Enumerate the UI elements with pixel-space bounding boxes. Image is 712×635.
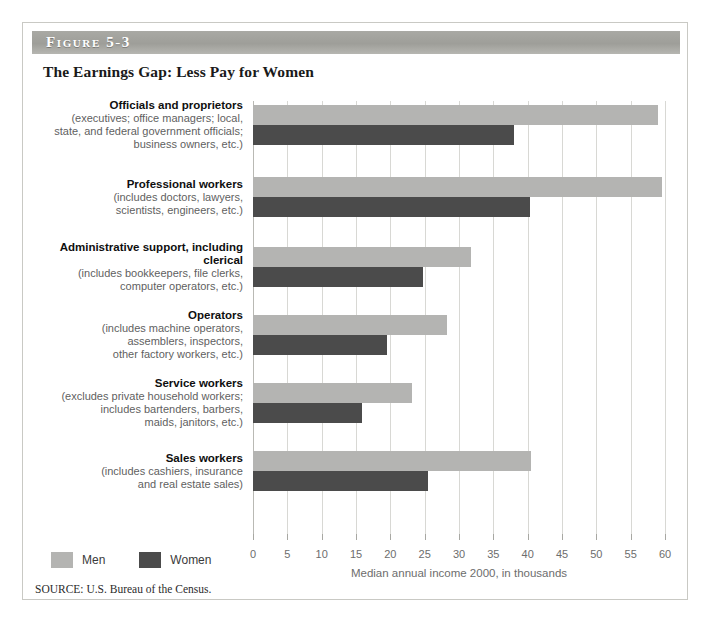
x-axis-tick [287, 534, 288, 540]
legend-label: Women [170, 553, 211, 567]
category-name: Sales workers [35, 452, 243, 465]
bar-men [253, 383, 412, 403]
bar-men [253, 247, 471, 267]
x-axis-tick [390, 534, 391, 540]
x-axis-tick [459, 534, 460, 540]
legend-item: Men [51, 552, 105, 568]
chart-title: The Earnings Gap: Less Pay for Women [43, 63, 314, 81]
category-label: Operators(includes machine operators, as… [35, 309, 253, 361]
x-axis-tick-label: 40 [522, 548, 534, 560]
category-name: Officials and proprietors [35, 99, 243, 112]
x-axis-tick-label: 50 [590, 548, 602, 560]
figure-number-label: Figure 5-3 [46, 34, 131, 51]
x-axis-tick [596, 534, 597, 540]
bar-group: Administrative support, including cleric… [253, 247, 665, 287]
x-axis-tick [425, 534, 426, 540]
x-axis-tick [562, 534, 563, 540]
bar-group: Sales workers(includes cashiers, insuran… [253, 451, 665, 491]
bar-women [253, 197, 530, 217]
x-axis-tick-label: 30 [453, 548, 465, 560]
bar-men [253, 177, 662, 197]
bar-group: Operators(includes machine operators, as… [253, 315, 665, 355]
figure-card: Figure 5-3 The Earnings Gap: Less Pay fo… [22, 22, 688, 600]
gridline [665, 101, 666, 534]
category-detail: (excludes private household workers; inc… [35, 390, 243, 429]
category-label: Administrative support, including cleric… [35, 241, 253, 293]
category-detail: (executives; office managers; local, sta… [35, 112, 243, 151]
category-label: Service workers(excludes private househo… [35, 377, 253, 429]
bar-men [253, 105, 658, 125]
x-axis-tick [528, 534, 529, 540]
x-axis-tick [631, 534, 632, 540]
figure-number-band: Figure 5-3 [32, 31, 680, 54]
legend-swatch [51, 552, 73, 568]
x-axis-tick-label: 45 [556, 548, 568, 560]
x-axis-tick-label: 25 [419, 548, 431, 560]
bar-men [253, 315, 447, 335]
bar-women [253, 125, 514, 145]
legend-item: Women [139, 552, 211, 568]
x-axis-tick-label: 5 [284, 548, 290, 560]
category-name: Operators [35, 309, 243, 322]
x-axis-tick-label: 20 [384, 548, 396, 560]
bar-group: Officials and proprietors(executives; of… [253, 105, 665, 145]
bar-group: Service workers(excludes private househo… [253, 383, 665, 423]
legend-swatch [139, 552, 161, 568]
x-axis-tick-label: 55 [625, 548, 637, 560]
x-axis-tick-label: 60 [659, 548, 671, 560]
bar-women [253, 267, 423, 287]
chart-legend: MenWomen [51, 552, 211, 568]
bar-women [253, 335, 387, 355]
category-name: Professional workers [35, 178, 243, 191]
category-detail: (includes machine operators, assemblers,… [35, 322, 243, 361]
bar-men [253, 451, 531, 471]
category-label: Professional workers(includes doctors, l… [35, 178, 253, 217]
x-axis-tick [356, 534, 357, 540]
category-name: Service workers [35, 377, 243, 390]
x-axis-tick-label: 0 [250, 548, 256, 560]
source-note: SOURCE: U.S. Bureau of the Census. [35, 583, 211, 595]
bar-women [253, 403, 362, 423]
x-axis-tick [253, 534, 254, 540]
x-axis-title: Median annual income 2000, in thousands [253, 567, 665, 579]
legend-label: Men [82, 553, 105, 567]
category-detail: (includes bookkeepers, file clerks, comp… [35, 267, 243, 293]
category-name: Administrative support, including cleric… [35, 241, 243, 267]
x-axis-tick [322, 534, 323, 540]
x-axis-tick [493, 534, 494, 540]
category-label: Officials and proprietors(executives; of… [35, 99, 253, 151]
bar-women [253, 471, 428, 491]
chart-plot-area: Officials and proprietors(executives; of… [253, 101, 665, 534]
x-axis-tick [665, 534, 666, 540]
x-axis-tick-label: 10 [316, 548, 328, 560]
category-label: Sales workers(includes cashiers, insuran… [35, 452, 253, 491]
category-detail: (includes doctors, lawyers, scientists, … [35, 191, 243, 217]
bar-group: Professional workers(includes doctors, l… [253, 177, 665, 217]
x-axis-tick-label: 35 [487, 548, 499, 560]
category-detail: (includes cashiers, insurance and real e… [35, 465, 243, 491]
x-axis-tick-label: 15 [350, 548, 362, 560]
